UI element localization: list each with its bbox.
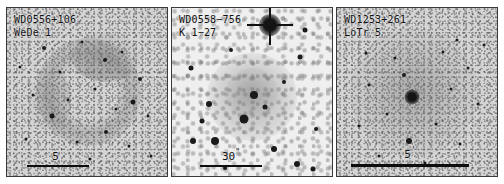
star [385, 112, 388, 115]
panel-designation: WD1253+261 [344, 14, 406, 25]
star [302, 27, 307, 32]
panel-designation: WD0556+106 [14, 14, 76, 25]
star [262, 105, 267, 110]
star [483, 43, 486, 46]
star [282, 80, 286, 84]
star [229, 48, 233, 52]
star [435, 122, 438, 125]
image-panel-wede1[interactable]: WD0556+106WeDe 1 5' [6, 7, 168, 177]
scale-bar-value: 5 [404, 148, 411, 161]
star [94, 87, 97, 90]
star [467, 67, 470, 70]
scale-bar-value: 30 [222, 150, 235, 163]
star [18, 65, 21, 68]
bright-star-saturated [259, 14, 281, 36]
star [456, 38, 459, 41]
star [441, 50, 444, 53]
star [314, 127, 318, 131]
star [31, 94, 34, 97]
star [49, 113, 54, 118]
star [294, 161, 300, 167]
star [146, 114, 149, 117]
star [42, 46, 46, 50]
star [476, 102, 479, 105]
star [25, 138, 28, 141]
scale-bar-unit: " [235, 148, 240, 157]
scale-bar-label: 5' [351, 145, 469, 161]
star [189, 66, 194, 71]
star [368, 84, 371, 87]
star [402, 73, 406, 77]
figure-panel-strip: WD0556+106WeDe 1 5' [0, 0, 504, 184]
star [58, 70, 61, 73]
scale-bar-lotr5: 5' [351, 145, 469, 167]
panel-row: WD0556+106WeDe 1 5' [6, 7, 498, 177]
star [298, 54, 303, 59]
star [240, 114, 249, 123]
image-panel-lotr5[interactable]: WD1253+261LoTr 5 5' [336, 7, 498, 177]
star [406, 138, 412, 144]
panel-label-wede1: WD0556+106WeDe 1 [14, 13, 76, 39]
panel-label-k127: WD0558−756K 1−27 [179, 13, 241, 39]
star [76, 141, 79, 144]
star [271, 146, 277, 152]
scale-bar-unit: ' [59, 148, 64, 157]
star [138, 77, 142, 81]
panel-nebula-name: K 1−27 [179, 26, 241, 39]
image-panel-k127[interactable]: WD0558−756K 1−27 30" [171, 7, 333, 177]
star [449, 87, 452, 90]
star [150, 154, 153, 157]
star [81, 40, 84, 43]
star [250, 91, 258, 99]
scale-bar-label: 30" [200, 147, 262, 163]
star [104, 130, 108, 134]
star [131, 100, 136, 105]
star [190, 138, 196, 144]
star [206, 101, 212, 107]
scale-bar-wede1: 5' [27, 147, 89, 167]
star [127, 144, 130, 147]
star [89, 158, 92, 161]
scale-bar-line [351, 164, 469, 167]
panel-label-lotr5: WD1253+261LoTr 5 [344, 13, 406, 39]
central-star-lotr5 [405, 90, 420, 105]
star [103, 58, 107, 62]
star [121, 50, 124, 53]
scale-bar-value: 5 [52, 150, 59, 163]
star [393, 57, 396, 60]
panel-designation: WD0558−756 [179, 14, 241, 25]
star [200, 118, 205, 123]
star [211, 137, 219, 145]
panel-nebula-name: WeDe 1 [14, 26, 76, 39]
star [310, 167, 315, 172]
scale-bar-line [200, 165, 262, 167]
scale-bar-label: 5' [27, 147, 89, 163]
star [114, 107, 117, 110]
scale-bar-line [27, 165, 89, 167]
star [364, 52, 367, 55]
scale-bar-unit: ' [411, 146, 416, 155]
scale-bar-k127: 30" [200, 147, 262, 167]
panel-nebula-name: LoTr 5 [344, 26, 406, 39]
star [358, 124, 361, 127]
star [66, 99, 69, 102]
